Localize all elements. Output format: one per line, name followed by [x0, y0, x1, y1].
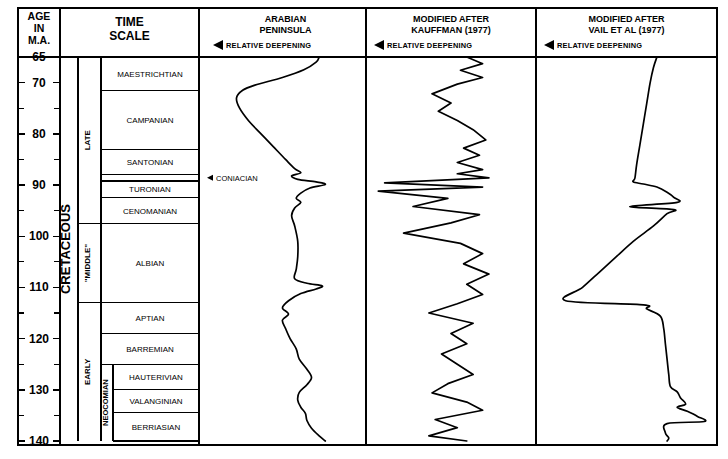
stage-label-valanginian: VALANGINIAN — [129, 397, 182, 406]
age-header-line-0: AGE — [28, 10, 51, 22]
age-tick-label-90: 90 — [32, 178, 46, 192]
panel-title-vail-et-al-1977-line-0: MODIFIED AFTER — [588, 14, 665, 24]
system-label-cretaceous: CRETACEOUS — [58, 204, 73, 294]
deepening-arrow-kauffman-1977 — [374, 40, 384, 50]
age-header-line-2: M.A. — [28, 34, 50, 46]
subseries-label-0: NEOCOMIAN — [101, 379, 110, 426]
stage-label-turonian: TURONIAN — [129, 185, 171, 194]
series-label-1: "MIDDLE" — [84, 244, 93, 282]
panel-axis-label-kauffman-1977: RELATIVE DEEPENING — [387, 41, 472, 50]
curve-vail-et-al-1977 — [563, 57, 706, 441]
age-header-line-1: IN — [34, 22, 45, 34]
time-scale-header-line-1: SCALE — [109, 29, 150, 43]
curve-panels — [236, 57, 705, 441]
series-label-2: EARLY — [84, 358, 93, 385]
curve-kauffman-1977 — [378, 57, 489, 441]
text-labels: AGEINM.A.TIMESCALEARABIANPENINSULARELATI… — [28, 10, 665, 50]
age-tick-label-140: 140 — [29, 434, 49, 448]
panel-axis-label-vail-et-al-1977: RELATIVE DEEPENING — [557, 41, 642, 50]
age-tick-label-65: 65 — [32, 50, 46, 64]
age-tick-label-80: 80 — [32, 127, 46, 141]
stage-label-campanian: CAMPANIAN — [127, 116, 174, 125]
stage-label-santonian: SANTONIAN — [127, 158, 174, 167]
age-tick-label-110: 110 — [29, 280, 49, 294]
curve-arabian-peninsula — [236, 57, 325, 441]
stage-label-barremian: BARREMIAN — [126, 345, 174, 354]
panel-title-kauffman-1977-line-0: MODIFIED AFTER — [413, 14, 490, 24]
panel-title-arabian-peninsula-line-1: PENINSULA — [259, 25, 312, 35]
time-scale-column: CRETACEOUSLATE"MIDDLE"EARLYNEOCOMIANMAES… — [58, 57, 258, 441]
stage-label-hauterivian: HAUTERIVIAN — [129, 373, 183, 382]
time-scale-sea-level-figure: 65708090100110120130140 CRETACEOUSLATE"M… — [0, 0, 728, 459]
coniacian-callout-arrow — [207, 175, 213, 181]
stage-label-cenomanian: CENOMANIAN — [123, 207, 177, 216]
time-scale-header-line-0: TIME — [115, 15, 144, 29]
series-label-0: LATE — [84, 129, 93, 150]
age-column: 65708090100110120130140 — [18, 50, 60, 448]
panel-title-arabian-peninsula-line-0: ARABIAN — [265, 14, 307, 24]
panel-title-kauffman-1977-line-1: KAUFFMAN (1977) — [411, 25, 491, 35]
age-tick-label-70: 70 — [32, 76, 46, 90]
deepening-arrow-vail-et-al-1977 — [544, 40, 554, 50]
stage-label-aptian: APTIAN — [136, 314, 165, 323]
coniacian-callout-label: CONIACIAN — [216, 174, 258, 183]
panel-title-vail-et-al-1977-line-1: VAIL ET AL (1977) — [588, 25, 664, 35]
stage-label-berriasian: BERRIASIAN — [132, 423, 181, 432]
age-tick-label-120: 120 — [29, 332, 49, 346]
stage-label-maestrichtian: MAESTRICHTIAN — [117, 70, 183, 79]
deepening-arrow-arabian-peninsula — [213, 40, 223, 50]
figure-root: 65708090100110120130140 CRETACEOUSLATE"M… — [0, 0, 728, 459]
age-tick-label-100: 100 — [29, 229, 49, 243]
panel-axis-label-arabian-peninsula: RELATIVE DEEPENING — [226, 41, 311, 50]
stage-label-albian: ALBIAN — [136, 259, 165, 268]
age-tick-label-130: 130 — [29, 383, 49, 397]
